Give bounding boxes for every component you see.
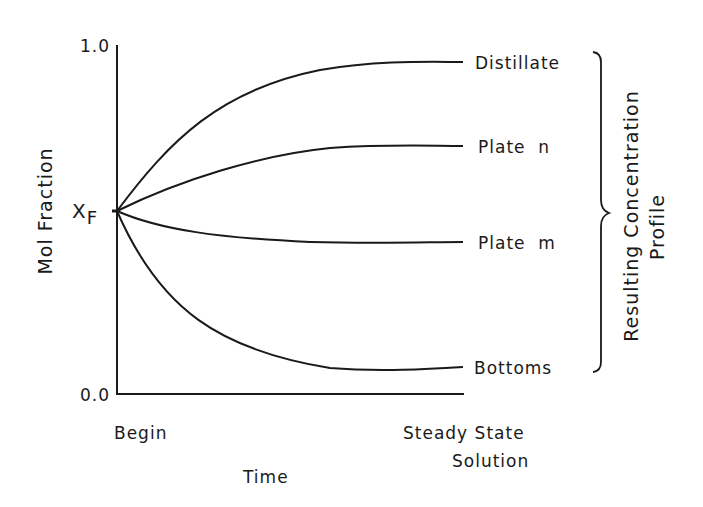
x-axis-title: Time [242, 467, 289, 487]
x-tick-begin: Begin [114, 423, 167, 443]
curly-bracket [593, 52, 609, 372]
bracket-label-line2: Profile [646, 194, 668, 260]
x-tick-steady-state: Steady State [403, 423, 525, 443]
label-plate-m: Plate m [478, 233, 556, 253]
curve-plate-m [117, 211, 463, 243]
xf-main: X [72, 199, 87, 223]
y-tick-top: 1.0 [80, 36, 110, 56]
label-plate-n: Plate n [478, 137, 550, 157]
label-distillate: Distillate [475, 53, 560, 73]
xf-label: XF [72, 199, 98, 228]
bracket-label-line1: Resulting Concentration [620, 90, 642, 342]
label-bottoms: Bottoms [474, 358, 552, 378]
y-tick-bottom: 0.0 [80, 385, 110, 405]
y-axis-title: Mol Fraction [34, 147, 56, 274]
curve-plate-n [117, 146, 463, 212]
xf-sub: F [87, 207, 98, 228]
chart-canvas: 1.0 0.0 XF Mol Fraction Begin Steady Sta… [0, 0, 703, 507]
curve-bottoms [117, 211, 463, 370]
x-tick-solution: Solution [452, 451, 529, 471]
